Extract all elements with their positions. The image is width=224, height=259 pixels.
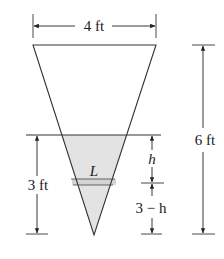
total-height-label: 6 ft — [195, 132, 216, 148]
water-depth-label: 3 ft — [28, 177, 49, 193]
strip-length-label: L — [89, 163, 98, 179]
strip-height-above-label: h — [148, 151, 156, 167]
top-width-label: 4 ft — [84, 18, 105, 34]
strip-L — [72, 179, 116, 185]
tank-diagram: 4 ft 6 ft 3 ft h 3 − h L — [0, 0, 224, 259]
strip-height-below-label: 3 − h — [136, 200, 167, 216]
